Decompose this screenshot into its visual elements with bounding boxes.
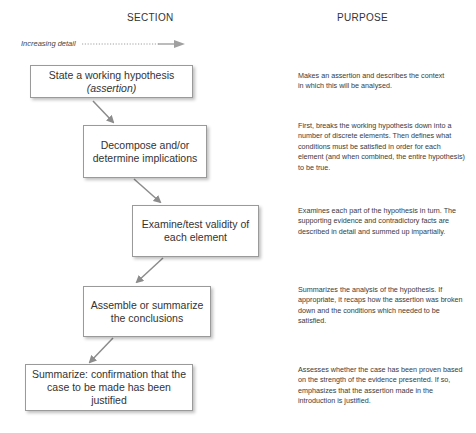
step-3-title: Examine/test validity of each element	[137, 218, 254, 244]
arrow-3-4	[137, 258, 163, 282]
step-1-title: State a working hypothesis	[35, 69, 188, 82]
arrow-1-2	[93, 101, 113, 122]
step-2-title: Decompose and/or determine implications	[88, 139, 202, 165]
step-4-purpose: Summarizes the analysis of the hypothesi…	[298, 285, 468, 327]
step-3-box: Examine/test validity of each element	[132, 205, 259, 257]
step-4-box: Assemble or summarize the conclusions	[83, 286, 211, 337]
step-5-title: Summarize: confirmation that the case to…	[30, 368, 188, 407]
step-1-subtitle: (assertion)	[35, 82, 188, 95]
step-2-purpose: First, breaks the working hypothesis dow…	[298, 121, 466, 173]
arrow-2-3	[134, 179, 160, 202]
step-5-purpose: Assesses whether the case has been prove…	[298, 365, 468, 407]
step-1-box: State a working hypothesis (assertion)	[30, 65, 193, 98]
step-1-purpose: Makes an assertion and describes the con…	[298, 71, 448, 92]
step-5-box: Summarize: confirmation that the case to…	[25, 364, 193, 411]
step-4-title: Assemble or summarize the conclusions	[88, 299, 206, 325]
increasing-detail-arrow-icon	[82, 40, 185, 48]
step-2-box: Decompose and/or determine implications	[83, 125, 207, 178]
arrow-4-5	[90, 338, 113, 362]
step-3-purpose: Examines each part of the hypothesis in …	[298, 206, 464, 237]
